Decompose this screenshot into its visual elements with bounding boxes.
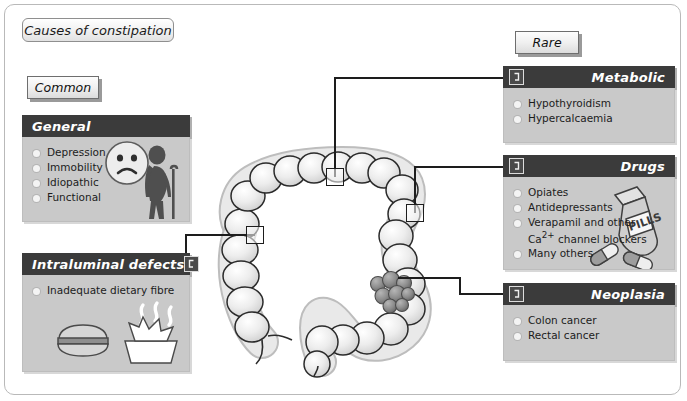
list-item: Inadequate dietary fibre [33,284,181,297]
panel-metabolic-list: Hypothyroidism Hypercalcaemia [504,88,674,135]
panel-drugs-title: Drugs [620,159,665,174]
panel-intraluminal-title: Intraluminal defects [32,257,184,272]
panel-drugs: Drugs PILLS [503,155,675,270]
panel-general-title: General [32,119,91,134]
list-item: Hypercalcaemia [514,112,666,125]
diagram-canvas: Causes of constipation Common Rare [0,0,687,401]
panel-general-header: General [22,115,190,137]
panel-general: General Depression [22,115,190,222]
panel-drugs-header: Drugs [503,155,675,177]
panel-neoplasia: Neoplasia Colon cancer Rectal cancer [503,283,675,361]
panel-drugs-body: PILLS Opiates Antidepressants Verapamil [503,177,675,270]
connector-icon[interactable] [509,69,524,85]
panel-neoplasia-body: Colon cancer Rectal cancer [503,305,675,361]
connector-neoplasia-horizontal-top [398,277,460,279]
marker-transverse-colon[interactable] [326,168,344,186]
panel-metabolic-header: Metabolic [503,66,675,88]
panel-intraluminal-body: Inadequate dietary fibre [22,275,190,372]
connector-metabolic-horizontal [334,77,511,79]
panel-general-body: Depression Immobility Idiopathic Functio… [22,137,190,222]
panel-neoplasia-title: Neoplasia [591,287,665,302]
panel-neoplasia-list: Colon cancer Rectal cancer [504,305,674,352]
panel-intraluminal-defects: Intraluminal defects [22,253,190,372]
marker-descending-colon[interactable] [406,204,424,222]
panel-metabolic-title: Metabolic [592,70,665,85]
list-item: Functional [33,191,181,204]
panel-intraluminal-header: Intraluminal defects [22,253,190,275]
connector-metabolic-vertical [334,77,336,177]
list-item: Rectal cancer [514,329,666,342]
connector-intralum-horizontal-top [185,234,255,236]
list-item: Immobility [33,161,181,174]
list-item: Colon cancer [514,314,666,327]
panel-intraluminal-list: Inadequate dietary fibre [23,275,189,307]
legend-rare-button[interactable]: Rare [515,31,579,54]
connector-neoplasia-vertical [459,277,461,294]
panel-metabolic-body: Hypothyroidism Hypercalcaemia [503,88,675,143]
page-title: Causes of constipation [22,18,174,42]
drugs-item3-line1: Verapamil and other [528,216,635,228]
list-item: Opiates [514,186,666,199]
panel-neoplasia-header: Neoplasia [503,283,675,305]
marker-ascending-colon[interactable] [246,226,264,244]
burger-and-fries-illustration [49,301,189,367]
list-item: Antidepressants [514,201,666,214]
legend-common-button[interactable]: Common [27,76,99,99]
connector-icon[interactable] [184,256,199,272]
panel-metabolic: Metabolic Hypothyroidism Hypercalcaemia [503,66,675,143]
list-item: Many others [514,247,666,260]
panel-general-list: Depression Immobility Idiopathic Functio… [23,137,189,214]
connector-drugs-horizontal [414,166,511,168]
list-item: Idiopathic [33,176,181,189]
panel-drugs-list: Opiates Antidepressants Verapamil and ot… [504,177,674,270]
drugs-item3-ca: Ca [528,232,542,244]
drugs-item3-superscript: 2+ [542,230,555,240]
list-item: Hypothyroidism [514,97,666,110]
connector-icon[interactable] [509,286,524,302]
list-item: Verapamil and otherCa2+ channel blockers [514,216,666,245]
list-item: Depression [33,146,181,159]
drugs-item3-rest: channel blockers [555,232,647,244]
connector-icon[interactable] [509,158,524,174]
